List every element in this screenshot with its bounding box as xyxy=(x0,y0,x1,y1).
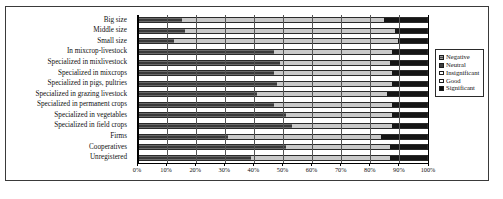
x-tick-label: 10% xyxy=(160,167,172,173)
bar-segment-signif xyxy=(392,82,427,86)
bar-segment-signif xyxy=(390,145,427,149)
bar-segment-insig xyxy=(286,145,390,149)
category-label: Small size xyxy=(6,36,131,47)
legend-item-signif[interactable]: Significant xyxy=(439,85,481,92)
bar-row xyxy=(138,68,428,79)
bar-segment-insig xyxy=(182,18,384,22)
bar-row xyxy=(138,47,428,58)
bar-segment-negative xyxy=(139,39,174,43)
bar-row xyxy=(138,142,428,153)
bar-segment-negative xyxy=(139,18,182,22)
stacked-bar[interactable] xyxy=(138,17,428,23)
x-tick-label: 90% xyxy=(393,167,405,173)
category-label: Specialized in vegetables xyxy=(6,110,131,121)
bar-segment-negative xyxy=(139,92,257,96)
legend-label: Neutral xyxy=(446,62,466,69)
bar-segment-negative xyxy=(139,103,274,107)
bar-segment-signif xyxy=(387,92,427,96)
bar-segment-insig xyxy=(251,156,389,160)
x-tick-label: 0% xyxy=(133,167,141,173)
bar-row xyxy=(138,15,428,26)
bar-segment-insig xyxy=(280,61,389,65)
stacked-bar[interactable] xyxy=(138,134,428,140)
stacked-bar[interactable] xyxy=(138,123,428,129)
legend-swatch-icon xyxy=(439,55,444,60)
bar-segment-negative xyxy=(139,124,292,128)
x-tick-label: 30% xyxy=(219,167,231,173)
bar-segment-negative xyxy=(139,113,286,117)
bar-segment-insig xyxy=(274,71,392,75)
bar-segment-negative xyxy=(139,156,251,160)
legend-swatch-icon xyxy=(439,86,444,91)
legend-label: Insignificant xyxy=(446,70,479,77)
bar-segment-insig xyxy=(274,50,392,54)
stacked-bar[interactable] xyxy=(138,155,428,161)
category-label: Firms xyxy=(6,131,131,142)
legend-item-insig[interactable]: Insignificant xyxy=(439,70,481,77)
stacked-bar[interactable] xyxy=(138,81,428,87)
bar-segment-signif xyxy=(392,50,427,54)
bar-row xyxy=(138,153,428,164)
x-axis: 0%10%20%30%40%50%60%70%80%90%100% xyxy=(137,163,428,179)
category-label: In mixcrop-livestock xyxy=(6,47,131,58)
bar-segment-signif xyxy=(398,39,427,43)
category-label: Specialized in pigs, pultries xyxy=(6,78,131,89)
bar-segment-negative xyxy=(139,29,185,33)
bar-row xyxy=(138,100,428,111)
bar-segment-negative xyxy=(139,145,286,149)
bar-row xyxy=(138,89,428,100)
bar-segment-insig xyxy=(185,29,395,33)
x-tick-label: 70% xyxy=(335,167,347,173)
legend-label: Negative xyxy=(446,54,470,61)
category-label: Specialized in field crops xyxy=(6,121,131,132)
bar-segment-insig xyxy=(174,39,399,43)
bar-segment-signif xyxy=(390,61,427,65)
bar-segment-signif xyxy=(384,18,427,22)
stacked-bar[interactable] xyxy=(138,112,428,118)
bar-row xyxy=(138,26,428,37)
bar-segment-signif xyxy=(392,103,427,107)
category-label: Specialized in permanent crops xyxy=(6,100,131,111)
category-label: Middle size xyxy=(6,26,131,37)
bar-row xyxy=(138,121,428,132)
bar-segment-insig xyxy=(277,82,392,86)
x-tick-label: 100% xyxy=(421,167,436,173)
x-tick-label: 60% xyxy=(306,167,318,173)
stacked-bar[interactable] xyxy=(138,91,428,97)
bar-segment-negative xyxy=(139,50,274,54)
category-label: Cooperatives xyxy=(6,142,131,153)
stacked-bar[interactable] xyxy=(138,38,428,44)
x-tick-label: 20% xyxy=(189,167,201,173)
x-tick-label: 80% xyxy=(364,167,376,173)
legend-item-negative[interactable]: Negative xyxy=(439,54,481,61)
stacked-bar[interactable] xyxy=(138,49,428,55)
bar-segment-negative xyxy=(139,61,280,65)
stacked-bar[interactable] xyxy=(138,60,428,66)
category-label: Specialized in grazing livestock xyxy=(6,89,131,100)
legend-label: Good xyxy=(446,78,461,85)
bar-segment-negative xyxy=(139,135,228,139)
legend-swatch-icon xyxy=(439,63,444,68)
bar-row xyxy=(138,36,428,47)
chart-figure: Big sizeMiddle sizeSmall sizeIn mixcrop-… xyxy=(5,6,489,181)
bar-segment-negative xyxy=(139,82,277,86)
legend-item-neutral[interactable]: Neutral xyxy=(439,62,481,69)
legend-swatch-icon xyxy=(439,71,444,76)
stacked-bar[interactable] xyxy=(138,28,428,34)
bar-segment-insig xyxy=(286,113,393,117)
bar-segment-signif xyxy=(392,124,427,128)
stacked-bar[interactable] xyxy=(138,70,428,76)
category-label: Specialized in mixcrops xyxy=(6,68,131,79)
stacked-bar[interactable] xyxy=(138,102,428,108)
bar-segment-negative xyxy=(139,71,274,75)
stacked-bar[interactable] xyxy=(138,144,428,150)
bar-segment-insig xyxy=(292,124,393,128)
category-label: Specialized in mixlivestock xyxy=(6,57,131,68)
legend-item-good[interactable]: Good xyxy=(439,78,481,85)
bar-segment-signif xyxy=(381,135,427,139)
category-axis: Big sizeMiddle sizeSmall sizeIn mixcrop-… xyxy=(6,15,131,163)
bars-container xyxy=(138,15,428,163)
legend-label: Significant xyxy=(446,85,475,92)
x-tick-label: 50% xyxy=(277,167,289,173)
legend-swatch-icon xyxy=(439,79,444,84)
